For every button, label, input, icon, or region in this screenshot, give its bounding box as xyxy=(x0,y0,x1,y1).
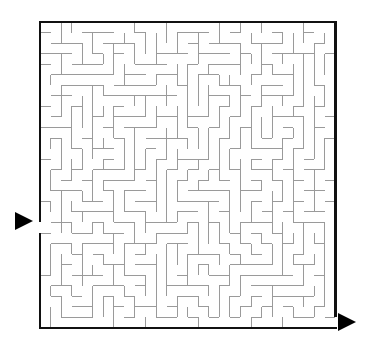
maze-background xyxy=(0,0,373,344)
maze-figure xyxy=(0,0,373,344)
maze-canvas xyxy=(0,0,373,344)
